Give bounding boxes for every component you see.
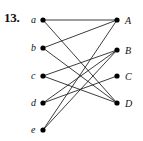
vertex-label-D: D [124, 98, 133, 109]
vertex-label-b: b [31, 42, 36, 53]
graph-edge-e-A [43, 20, 117, 130]
graph-vertex-C [114, 73, 119, 78]
vertex-label-C: C [125, 71, 132, 82]
bipartite-graph-svg: abcdeABCD [0, 0, 143, 141]
graph-vertex-a [40, 17, 45, 22]
graph-edge-c-B [43, 50, 117, 76]
graph-vertex-b [40, 45, 45, 50]
vertex-label-d: d [31, 97, 37, 108]
vertex-label-c: c [31, 70, 36, 81]
graph-vertex-A [114, 17, 119, 22]
vertex-label-a: a [31, 14, 36, 25]
figure-container: 13. abcdeABCD [0, 0, 143, 141]
graph-vertex-c [40, 73, 45, 78]
vertex-label-e: e [31, 124, 36, 135]
graph-vertex-D [114, 100, 119, 105]
graph-vertex-B [114, 47, 119, 52]
graph-vertex-e [40, 127, 45, 132]
edges-layer [43, 20, 117, 130]
graph-vertex-d [40, 100, 45, 105]
graph-edge-b-A [43, 20, 117, 48]
vertex-label-B: B [125, 45, 131, 56]
vertex-label-A: A [124, 15, 132, 26]
